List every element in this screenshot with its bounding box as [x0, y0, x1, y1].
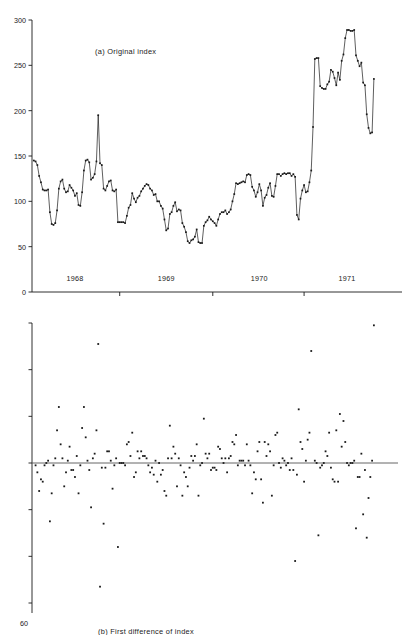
panel-a-data-point [69, 184, 71, 186]
panel-a-data-point [337, 72, 339, 74]
panel-a-data-point [273, 196, 275, 198]
panel-a-data-point [169, 213, 171, 215]
panel-a-data-point [294, 176, 296, 178]
panel-a-data-point [40, 181, 42, 183]
panel-a-data-point [334, 77, 336, 79]
panel-b-data-point [180, 464, 182, 466]
panel-b-data-point [101, 467, 103, 469]
panel-b-data-point [76, 455, 78, 457]
panel-b-data-point [348, 464, 350, 466]
panel-a-data-point [151, 190, 153, 192]
panel-a-data-point [251, 186, 253, 188]
panel-b-data-point [305, 460, 307, 462]
panel-a-data-point [146, 183, 148, 185]
panel-b-data-point [330, 467, 332, 469]
panel-a-data-point [285, 173, 287, 175]
panel-a-data-point [190, 239, 192, 241]
panel-a-data-point [233, 193, 235, 195]
panel-b-data-point [165, 495, 167, 497]
panel-a-data-point [42, 189, 44, 191]
panel-b-data-point [49, 520, 51, 522]
panel-b-data-point [276, 432, 278, 434]
panel-a-data-point [60, 181, 62, 183]
panel-a-data-point [309, 181, 311, 183]
panel-b-data-point [325, 450, 327, 452]
panel-a-data-point [38, 175, 40, 177]
panel-b-data-point [353, 460, 355, 462]
panel-a-data-point [258, 183, 260, 185]
panel-a-data-point [187, 240, 189, 242]
panel-b-data-point [307, 439, 309, 441]
panel-a-data-point [124, 222, 126, 224]
panel-b-data-point [287, 462, 289, 464]
panel-a-data-point [99, 162, 101, 164]
panel-a-data-point [192, 239, 194, 241]
panel-b-data-point [103, 523, 105, 525]
panel-b-data-point [121, 462, 123, 464]
panel-a-data-point [350, 30, 352, 32]
panel-a-data-point [275, 185, 277, 187]
panel-b-data-point [233, 443, 235, 445]
panel-a-plot-area [0, 0, 408, 300]
panel-a-data-point [53, 224, 55, 226]
panel-original-index: (a) Original index 050100150200250300 19… [0, 0, 408, 300]
panel-a-data-point [344, 37, 346, 39]
panel-a-data-point [353, 29, 355, 31]
panel-b-data-point [160, 474, 162, 476]
panel-a-data-point [142, 188, 144, 190]
panel-a-data-point [196, 229, 198, 231]
panel-a-data-point [248, 173, 250, 175]
panel-a-data-point [289, 172, 291, 174]
panel-b-ytick-60: 60 [0, 619, 28, 628]
panel-a-data-point [81, 191, 83, 193]
panel-a-data-point [368, 127, 370, 129]
panel-b-data-point [321, 464, 323, 466]
panel-b-data-point [201, 462, 203, 464]
panel-a-data-point [176, 210, 178, 212]
panel-b-data-point [97, 343, 99, 345]
panel-b-data-point [314, 460, 316, 462]
panel-b-data-point [210, 469, 212, 471]
panel-b-data-point [343, 420, 345, 422]
panel-b-data-point [60, 443, 62, 445]
panel-b-data-point [151, 467, 153, 469]
panel-first-difference: (b) First difference of index -60-40-200… [0, 300, 408, 635]
panel-b-data-point [337, 481, 339, 483]
panel-a-data-point [314, 58, 316, 60]
panel-a-data-point [262, 205, 264, 207]
panel-b-data-point [142, 455, 144, 457]
panel-a-data-point [269, 182, 271, 184]
panel-a-data-point [198, 241, 200, 243]
panel-a-data-point [330, 69, 332, 71]
panel-b-data-point [70, 469, 72, 471]
panel-a-data-point [74, 195, 76, 197]
panel-b-data-point [181, 495, 183, 497]
panel-a-data-point [96, 161, 98, 163]
panel-b-data-point [271, 495, 273, 497]
panel-a-data-point [339, 79, 341, 81]
panel-b-data-point [248, 460, 250, 462]
panel-a-data-point [361, 62, 363, 64]
panel-b-data-point [289, 469, 291, 471]
panel-b-data-point [260, 478, 262, 480]
panel-a-data-point [106, 185, 108, 187]
panel-b-data-point [146, 457, 148, 459]
panel-a-data-point [332, 71, 334, 73]
panel-b-data-point [296, 474, 298, 476]
panel-a-xtick-1971: 1971 [327, 274, 367, 283]
panel-a-caption: (a) Original index [95, 47, 156, 56]
panel-a-data-point [67, 191, 69, 193]
panel-a-data-point [303, 184, 305, 186]
panel-b-data-point [92, 457, 94, 459]
panel-a-data-point [348, 29, 350, 31]
panel-b-data-point [45, 462, 47, 464]
panel-b-data-point [54, 457, 56, 459]
panel-a-data-point [219, 213, 221, 215]
panel-b-data-point [282, 457, 284, 459]
panel-a-data-point [88, 162, 90, 164]
panel-a-data-point [298, 219, 300, 221]
panel-b-data-point [155, 460, 157, 462]
panel-a-data-point [373, 78, 375, 80]
panel-b-data-point [192, 460, 194, 462]
panel-b-data-point [344, 441, 346, 443]
